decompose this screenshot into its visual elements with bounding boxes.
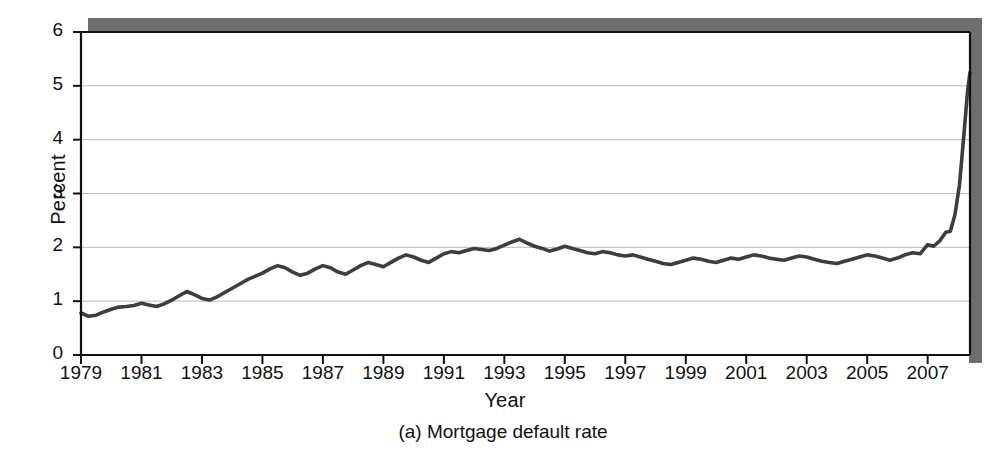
x-axis-title: Year	[425, 389, 585, 412]
mortgage-default-rate-chart	[0, 0, 1003, 456]
x-tick-label-2005: 2005	[834, 362, 900, 384]
x-tick-label-1999: 1999	[653, 362, 719, 384]
figure-container: 0123456 19791981198319851987198919911993…	[0, 0, 1003, 456]
y-tick-label-6: 6	[33, 19, 63, 41]
x-tick-label-1979: 1979	[48, 362, 114, 384]
x-tick-label-1991: 1991	[411, 362, 477, 384]
x-tick-label-1981: 1981	[108, 362, 174, 384]
x-tick-label-2007: 2007	[895, 362, 961, 384]
y-tick-label-0: 0	[33, 342, 63, 364]
x-tick-label-1983: 1983	[169, 362, 235, 384]
x-tick-label-2003: 2003	[774, 362, 840, 384]
x-tick-label-1987: 1987	[290, 362, 356, 384]
y-tick-label-1: 1	[33, 288, 63, 310]
x-tick-label-1993: 1993	[471, 362, 537, 384]
x-tick-label-1995: 1995	[532, 362, 598, 384]
figure-caption: (a) Mortgage default rate	[243, 421, 763, 443]
x-tick-label-2001: 2001	[713, 362, 779, 384]
x-tick-label-1985: 1985	[229, 362, 295, 384]
y-axis-title: Percent	[47, 110, 70, 270]
y-tick-marks	[73, 32, 81, 355]
x-tick-label-1997: 1997	[592, 362, 658, 384]
y-tick-label-5: 5	[33, 73, 63, 95]
x-tick-label-1989: 1989	[350, 362, 416, 384]
